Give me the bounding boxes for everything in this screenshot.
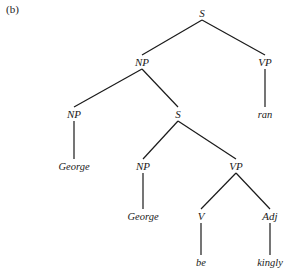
- tree-node-s0: S: [199, 7, 205, 19]
- tree-node-vp3: VP: [229, 160, 243, 172]
- tree-node-np3: NP: [135, 160, 150, 172]
- tree-edge-vp3-v: [201, 173, 236, 209]
- tree-edge-np1-s2: [142, 69, 178, 107]
- tree-edge-s0-np1: [142, 20, 202, 55]
- leaf-word-be: be: [196, 257, 206, 268]
- tree-edge-vp3-adj: [236, 173, 270, 209]
- tree-node-np2: NP: [66, 108, 81, 120]
- tree-edges: [74, 20, 270, 255]
- tree-edge-s0-vp1: [202, 20, 265, 55]
- syntax-tree: SNPVPNPSranGeorgeNPVPGeorgeVAdjbekingly: [0, 0, 288, 269]
- tree-node-s2: S: [175, 108, 181, 120]
- tree-node-np1: NP: [134, 56, 149, 68]
- leaf-word-g1: George: [58, 161, 89, 172]
- leaf-word-kingly: kingly: [257, 257, 283, 268]
- tree-node-vp1: VP: [258, 56, 272, 68]
- tree-edge-np1-np2: [74, 69, 142, 107]
- leaf-word-ran: ran: [258, 109, 273, 120]
- tree-edge-s2-np3: [143, 121, 178, 159]
- tree-node-adj: Adj: [261, 210, 277, 222]
- leaf-word-g2: George: [127, 211, 158, 222]
- tree-edge-s2-vp3: [178, 121, 236, 159]
- tree-node-v: V: [198, 210, 206, 222]
